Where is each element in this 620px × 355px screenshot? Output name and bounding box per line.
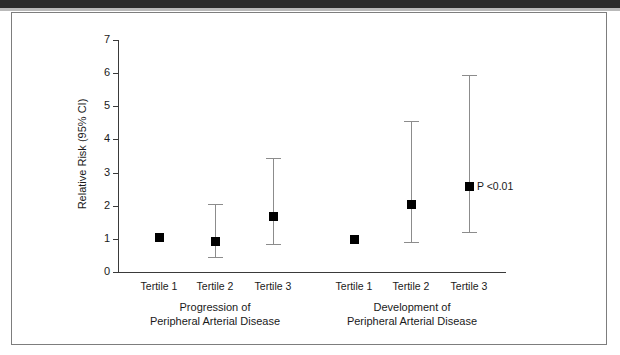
y-axis-tick-label: 5 [86, 100, 110, 111]
x-axis-line [118, 272, 506, 273]
plot-area: 01234567 Relative Risk (95% CI) Tertile … [0, 0, 620, 355]
y-axis-tick [113, 40, 118, 41]
y-axis-tick-label: 6 [86, 67, 110, 78]
y-axis-tick [113, 73, 118, 74]
y-axis-tick [113, 206, 118, 207]
error-bar-cap-upper [266, 158, 281, 159]
p-value-annotation: P <0.01 [477, 180, 513, 192]
data-point-marker[interactable] [465, 182, 474, 191]
figure-page: 01234567 Relative Risk (95% CI) Tertile … [0, 0, 620, 355]
error-bar-cap-lower [404, 242, 419, 243]
y-axis-tick-label: 4 [86, 133, 110, 144]
error-bar-cap-upper [404, 121, 419, 122]
error-bar-line [469, 75, 470, 232]
y-axis-tick [113, 106, 118, 107]
data-point-marker[interactable] [407, 200, 416, 209]
group-label-line2: Peripheral Arterial Disease [100, 314, 330, 328]
y-axis-tick-label: 2 [86, 200, 110, 211]
y-axis-tick-label: 7 [86, 34, 110, 45]
error-bar-cap-lower [208, 257, 223, 258]
group-label: Progression ofPeripheral Arterial Diseas… [100, 300, 330, 328]
group-label: Development ofPeripheral Arterial Diseas… [297, 300, 527, 328]
data-point-marker[interactable] [155, 233, 164, 242]
y-axis-tick-label: 1 [86, 233, 110, 244]
y-axis-tick [113, 239, 118, 240]
error-bar-cap-upper [208, 204, 223, 205]
y-axis-tick-label: 3 [86, 167, 110, 178]
x-axis-category-label: Tertile 3 [434, 280, 504, 292]
error-bar-line [411, 121, 412, 242]
x-axis-category-label: Tertile 3 [238, 280, 308, 292]
error-bar-line [273, 158, 274, 244]
y-axis-line [118, 40, 119, 273]
y-axis-tick-label: 0 [86, 266, 110, 277]
data-point-marker[interactable] [350, 235, 359, 244]
y-axis-tick [113, 272, 118, 273]
error-bar-cap-upper [462, 75, 477, 76]
error-bar-line [215, 204, 216, 257]
error-bar-cap-lower [462, 232, 477, 233]
data-point-marker[interactable] [211, 237, 220, 246]
error-bar-cap-lower [266, 244, 281, 245]
group-label-line1: Progression of [180, 301, 251, 313]
data-point-marker[interactable] [269, 212, 278, 221]
group-label-line1: Development of [373, 301, 450, 313]
y-axis-tick [113, 173, 118, 174]
y-axis-tick [113, 139, 118, 140]
group-label-line2: Peripheral Arterial Disease [297, 314, 527, 328]
y-axis-title: Relative Risk (95% CI) [76, 59, 88, 249]
